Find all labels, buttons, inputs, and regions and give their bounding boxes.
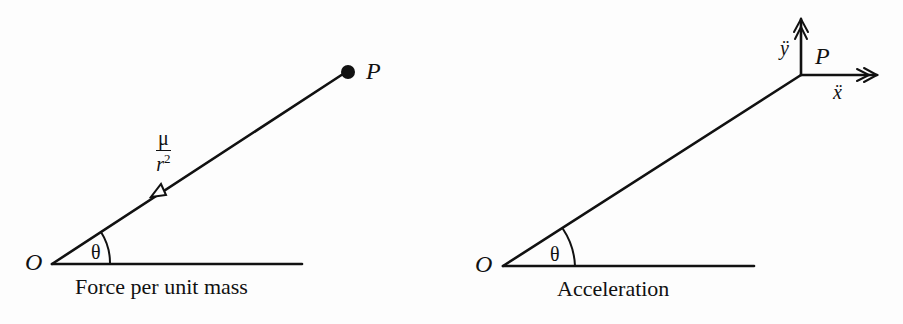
right-angle-label: θ [550,244,560,264]
left-angle-label: θ [91,242,101,262]
x-acceleration-label: ẍ [833,82,842,102]
left-origin-label: O [25,250,42,274]
left-angle-arc [101,232,110,264]
force-denominator: r2 [156,151,170,174]
left-point-label: P [366,59,381,83]
force-denominator-exp: 2 [164,151,171,166]
force-magnitude-label: μ r2 [156,128,171,174]
left-panel-graphics [52,65,355,264]
left-radius-line [52,74,343,264]
force-arrowhead-icon [151,184,166,197]
right-point-label: P [815,44,830,68]
right-radius-line [503,75,801,266]
y-acceleration-label: ÿ [780,38,789,58]
figure: O P θ μ r2 Force per unit mass O P θ ÿ ẍ… [0,0,903,324]
right-origin-label: O [475,252,492,276]
force-denominator-base: r [156,153,164,175]
force-numerator: μ [156,128,171,151]
point-p-dot [341,65,355,79]
right-caption: Acceleration [557,278,669,300]
left-caption: Force per unit mass [75,276,248,298]
right-angle-arc [563,229,575,266]
